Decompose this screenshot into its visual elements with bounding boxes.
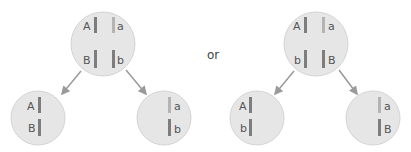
chromosome-B: [322, 50, 325, 68]
or-separator: or: [207, 48, 219, 62]
allele-label: A: [239, 100, 247, 113]
chromosome-A: [304, 17, 307, 33]
chromosome-B: [378, 119, 381, 136]
chromosome-a: [322, 17, 325, 33]
allele-label: a: [174, 100, 181, 113]
chromosome-A: [94, 17, 97, 33]
allele-label: b: [117, 54, 124, 67]
meiosis-diagram: A a B b A B a b or A a b B A: [0, 0, 411, 152]
chromosome-a: [112, 17, 115, 33]
arrow-right: [339, 70, 357, 94]
arrow-right: [126, 70, 146, 94]
chromosome-a: [378, 97, 381, 113]
arrow-left: [275, 71, 294, 94]
parent-cell: [71, 12, 135, 76]
allele-label: B: [28, 122, 36, 135]
chromosome-b: [249, 119, 252, 136]
chromosome-A: [38, 97, 41, 113]
chromosome-b: [304, 50, 307, 68]
chromosome-b: [112, 50, 115, 68]
allele-label: b: [240, 122, 247, 135]
allele-label: A: [27, 100, 35, 113]
allele-label: a: [384, 100, 391, 113]
allele-label: b: [174, 123, 181, 136]
chromosome-B: [94, 50, 97, 68]
chromosome-A: [249, 97, 252, 113]
allele-label: a: [328, 20, 335, 33]
allele-label: A: [83, 20, 91, 33]
right-diagram: A a b B A b a B: [230, 12, 400, 145]
chromosome-b: [168, 119, 171, 136]
allele-label: A: [293, 20, 301, 33]
daughter-cell-right: [346, 91, 400, 145]
allele-label: B: [328, 54, 336, 67]
arrow-left: [62, 71, 81, 94]
allele-label: a: [117, 20, 124, 33]
left-diagram: A a B b A B a b: [11, 12, 191, 145]
allele-label: b: [294, 54, 301, 67]
daughter-cell-right: [137, 91, 191, 145]
allele-label: B: [83, 54, 91, 67]
allele-label: B: [384, 123, 392, 136]
chromosome-B: [38, 119, 41, 136]
chromosome-a: [168, 97, 171, 113]
